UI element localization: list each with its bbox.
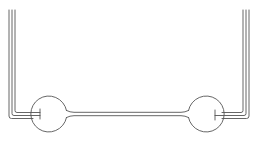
left-bulb	[31, 96, 67, 132]
diagram-canvas	[0, 0, 259, 144]
connecting-tube-top	[67, 111, 189, 113]
connecting-tube-bottom	[67, 116, 189, 118]
left-tube-outer	[9, 10, 33, 119]
right-bulb	[189, 96, 225, 132]
left-tube-inner	[15, 10, 40, 113]
apparatus-diagram	[0, 0, 259, 144]
right-tube-inner	[222, 10, 243, 113]
right-tube-middle	[215, 10, 246, 116]
right-tube-outer	[222, 10, 249, 119]
left-tube-middle	[12, 10, 40, 116]
